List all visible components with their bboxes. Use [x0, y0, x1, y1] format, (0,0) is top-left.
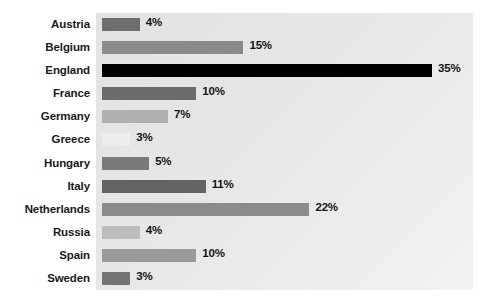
bar-row: Italy11%: [0, 175, 487, 198]
bar-row: France10%: [0, 82, 487, 105]
bar-track: [102, 110, 168, 123]
category-label-netherlands: Netherlands: [0, 198, 90, 221]
bar-row: Belgium15%: [0, 36, 487, 59]
bar-netherlands[interactable]: [102, 203, 309, 216]
bar-track: [102, 41, 243, 54]
bar-value-label-france: 10%: [202, 85, 224, 97]
bar-greece[interactable]: [102, 133, 130, 146]
bar-hungary[interactable]: [102, 157, 149, 170]
category-label-italy: Italy: [0, 175, 90, 198]
bar-row: Netherlands22%: [0, 198, 487, 221]
category-label-spain: Spain: [0, 244, 90, 267]
bar-value-label-germany: 7%: [174, 108, 190, 120]
bar-row: Russia4%: [0, 221, 487, 244]
category-label-hungary: Hungary: [0, 152, 90, 175]
bar-row: Hungary5%: [0, 152, 487, 175]
bar-value-label-italy: 11%: [212, 178, 234, 190]
horizontal-bar-chart: Austria4%Belgium15%England35%France10%Ge…: [0, 0, 487, 307]
bar-value-label-austria: 4%: [146, 16, 162, 28]
bar-italy[interactable]: [102, 180, 206, 193]
bar-sweden[interactable]: [102, 272, 130, 285]
bar-track: [102, 203, 309, 216]
category-label-russia: Russia: [0, 221, 90, 244]
bar-track: [102, 157, 149, 170]
bar-france[interactable]: [102, 87, 196, 100]
bar-russia[interactable]: [102, 226, 140, 239]
category-label-england: England: [0, 59, 90, 82]
bar-belgium[interactable]: [102, 41, 243, 54]
bar-track: [102, 64, 432, 77]
category-label-france: France: [0, 82, 90, 105]
bar-track: [102, 272, 130, 285]
bar-row: Greece3%: [0, 128, 487, 151]
bar-england[interactable]: [102, 64, 432, 77]
bar-value-label-belgium: 15%: [249, 39, 271, 51]
bar-value-label-sweden: 3%: [136, 270, 152, 282]
bar-track: [102, 249, 196, 262]
bar-value-label-russia: 4%: [146, 224, 162, 236]
bar-spain[interactable]: [102, 249, 196, 262]
bar-value-label-netherlands: 22%: [315, 201, 337, 213]
category-label-austria: Austria: [0, 13, 90, 36]
bar-row: Germany7%: [0, 105, 487, 128]
bar-value-label-hungary: 5%: [155, 155, 171, 167]
bar-track: [102, 226, 140, 239]
bar-track: [102, 133, 130, 146]
bar-track: [102, 18, 140, 31]
bar-value-label-spain: 10%: [202, 247, 224, 259]
bar-germany[interactable]: [102, 110, 168, 123]
category-label-greece: Greece: [0, 128, 90, 151]
bar-row: Spain10%: [0, 244, 487, 267]
bar-rows-container: Austria4%Belgium15%England35%France10%Ge…: [0, 13, 487, 290]
category-label-belgium: Belgium: [0, 36, 90, 59]
bar-row: England35%: [0, 59, 487, 82]
category-label-sweden: Sweden: [0, 267, 90, 290]
bar-track: [102, 87, 196, 100]
bar-value-label-england: 35%: [438, 62, 460, 74]
bar-value-label-greece: 3%: [136, 131, 152, 143]
bar-austria[interactable]: [102, 18, 140, 31]
bar-row: Austria4%: [0, 13, 487, 36]
bar-row: Sweden3%: [0, 267, 487, 290]
bar-track: [102, 180, 206, 193]
category-label-germany: Germany: [0, 105, 90, 128]
